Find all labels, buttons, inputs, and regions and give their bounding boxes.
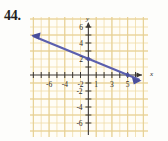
x-tick-label-3: 3 (110, 80, 114, 89)
y-tick-label-2: 2 (79, 55, 83, 64)
x-tick-label-1: 1 (94, 80, 98, 89)
x-tick-label--4: -4 (62, 80, 68, 89)
line-arrow-left (31, 32, 40, 39)
y-axis-label: y (86, 15, 89, 23)
point-y-intercept (86, 57, 90, 61)
coordinate-plane: y x -6 -4 -2 1 3 5 6 4 2 -2 -4 -6 (30, 17, 148, 137)
y-tick-label-6: 6 (79, 23, 83, 32)
y-tick-label--2: -2 (76, 87, 82, 96)
data-line (34, 36, 139, 79)
x-tick-label--6: -6 (46, 80, 52, 89)
y-tick-label-4: 4 (79, 39, 83, 48)
y-tick-label--4: -4 (76, 103, 82, 112)
x-tick-label-5: 5 (126, 80, 130, 89)
problem-number: 44. (4, 8, 21, 24)
y-tick-label--6: -6 (76, 119, 82, 128)
point-x-intercept (126, 73, 130, 77)
x-axis-label: x (150, 70, 153, 78)
figure-root: 44. (0, 0, 168, 141)
plotted-line-layer (30, 17, 148, 137)
